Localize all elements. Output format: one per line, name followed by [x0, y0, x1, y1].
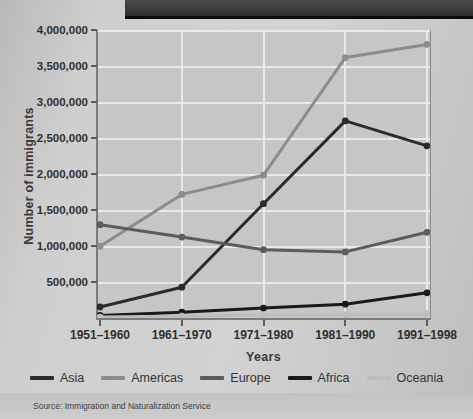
data-point-europe: [260, 246, 267, 253]
legend-item-oceania[interactable]: Oceania: [367, 371, 444, 385]
legend-swatch-africa: [288, 376, 312, 380]
y-tick-label: 2,500,000: [4, 132, 88, 144]
legend-label: Asia: [60, 371, 84, 385]
immigration-line-chart: Number of immigrants 4,000,0003,500,0003…: [0, 19, 473, 394]
x-tick-label: 1991–1998: [372, 328, 473, 342]
legend-swatch-europe: [200, 376, 224, 380]
data-point-americas: [424, 41, 430, 48]
data-point-asia: [342, 118, 349, 125]
legend-item-americas[interactable]: Americas: [101, 371, 183, 385]
y-tick-label: 3,500,000: [4, 60, 88, 72]
legend-label: Africa: [318, 371, 350, 385]
data-point-europe: [97, 221, 103, 228]
y-tick-label: 2,000,000: [4, 168, 88, 180]
legend-item-africa[interactable]: Africa: [288, 371, 350, 385]
x-tick-mark: [181, 320, 183, 326]
legend-swatch-americas: [101, 376, 125, 380]
data-point-oceania: [260, 312, 267, 318]
legend-item-asia[interactable]: Asia: [30, 371, 84, 385]
x-tick-mark: [263, 320, 265, 326]
y-tick-label: 1,500,000: [4, 204, 88, 216]
source-note: Source: Immigration and Naturalization S…: [33, 401, 211, 411]
legend-swatch-oceania: [367, 376, 391, 380]
data-point-asia: [260, 200, 267, 207]
x-tick-mark: [344, 320, 346, 326]
chart-legend: AsiaAmericasEuropeAfricaOceania: [0, 371, 473, 385]
data-point-oceania: [424, 311, 430, 318]
y-tick-label: 4,000,000: [4, 24, 88, 36]
y-tick-label: 500,000: [4, 276, 88, 288]
y-tick-label: 1,000,000: [4, 240, 88, 252]
legend-swatch-asia: [30, 376, 54, 380]
data-point-africa: [342, 301, 349, 308]
data-point-oceania: [342, 311, 349, 318]
y-tick-label: 3,000,000: [4, 96, 88, 108]
data-point-americas: [342, 54, 349, 61]
data-point-asia: [178, 284, 185, 291]
x-tick-mark: [99, 320, 101, 326]
data-point-americas: [260, 172, 267, 179]
legend-label: Oceania: [397, 371, 444, 385]
legend-label: Americas: [131, 371, 183, 385]
data-point-asia: [424, 143, 430, 150]
header-band: [125, 0, 473, 16]
chart-series-lines: [97, 30, 430, 318]
legend-item-europe[interactable]: Europe: [200, 371, 270, 385]
data-point-europe: [178, 234, 185, 241]
series-line-americas: [100, 44, 427, 246]
x-tick-mark: [426, 320, 428, 326]
data-point-africa: [424, 289, 430, 296]
x-axis-title: Years: [97, 350, 430, 364]
data-point-europe: [424, 229, 430, 236]
data-point-asia: [97, 304, 103, 311]
data-point-americas: [178, 191, 185, 198]
data-point-africa: [260, 305, 267, 312]
data-point-europe: [342, 249, 349, 256]
legend-label: Europe: [230, 371, 270, 385]
